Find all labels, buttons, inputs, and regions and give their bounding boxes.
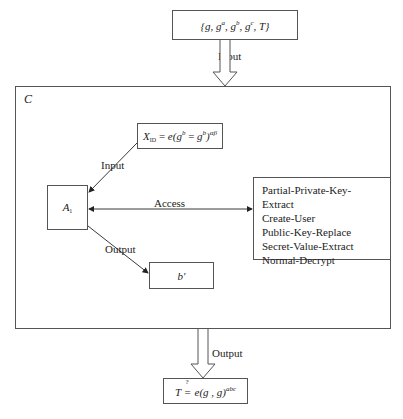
challenge-tuple-text: {g, ga, gb, gc, T}: [200, 19, 269, 32]
output-arrow-label-bottom: Output: [212, 347, 243, 359]
container-label: C: [24, 92, 32, 107]
xid-formula: XID = e(gb = gb)αβ: [143, 129, 217, 143]
access-arrow-label: Access: [154, 197, 185, 209]
oracle-item: Create-User: [262, 211, 382, 225]
input-arrow-label-top: Input: [218, 50, 241, 62]
challenge-tuple-box: {g, ga, gb, gc, T}: [172, 10, 298, 40]
oracle-queries-box: Partial-Private-Key-Extract Create-User …: [253, 177, 391, 260]
input-hollow-arrow: [213, 40, 237, 86]
guess-bprime-label: b′: [178, 270, 186, 282]
verification-formula: T = ? e(g , g)abc: [175, 385, 236, 398]
adversary-a1-box: A1: [47, 185, 88, 230]
oracle-item: Partial-Private-Key-Extract: [262, 183, 382, 211]
verification-box: T = ? e(g , g)abc: [163, 378, 248, 404]
adversary-a1-label: A1: [63, 201, 73, 214]
output-arrow-label-inner: Output: [105, 243, 136, 255]
xid-box: XID = e(gb = gb)αβ: [137, 123, 223, 149]
oracle-item: Public-Key-Replace: [262, 225, 382, 239]
guess-bprime-box: b′: [149, 262, 214, 289]
oracle-item: Secret-Value-Extract: [262, 239, 382, 253]
input-arrow-label-inner: Input: [101, 159, 124, 171]
oracle-item: Normal-Decrypt: [262, 253, 382, 267]
